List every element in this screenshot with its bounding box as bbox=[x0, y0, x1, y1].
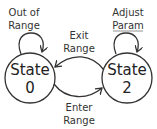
transition-label-out-of-range-line2: Range bbox=[8, 20, 40, 31]
state-2-node: State 2 bbox=[102, 53, 152, 103]
state-2-label-line1: State bbox=[107, 61, 147, 79]
self-loop-arrow-state-2 bbox=[114, 33, 138, 54]
transition-label-adjust-param-line1: Adjust bbox=[112, 7, 143, 18]
self-loop-arrow-state-0 bbox=[19, 33, 43, 54]
transition-label-enter-range-line1: Enter bbox=[66, 102, 94, 113]
state-0-node: State 0 bbox=[5, 53, 55, 103]
state-0-label-line1: State bbox=[10, 61, 50, 79]
enter-range-arrow bbox=[54, 84, 102, 97]
transition-label-exit-range-line2: Range bbox=[63, 43, 95, 54]
exit-range-arrow bbox=[55, 57, 104, 70]
transition-label-out-of-range-line1: Out of bbox=[9, 7, 40, 18]
state-2-label-line2: 2 bbox=[122, 79, 132, 97]
transition-label-enter-range-line2: Range bbox=[63, 115, 95, 126]
state-diagram: State 0 State 2 Out of Range Adjust Para… bbox=[0, 0, 157, 129]
state-0-label-line2: 0 bbox=[25, 79, 35, 97]
transition-label-adjust-param-line2: Param bbox=[112, 20, 144, 31]
transition-label-exit-range-line1: Exit bbox=[70, 30, 89, 41]
